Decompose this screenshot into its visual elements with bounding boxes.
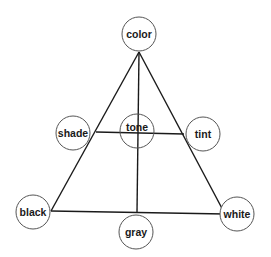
node-white: white — [220, 197, 254, 231]
node-gray-label: gray — [125, 226, 147, 238]
node-tone-label: tone — [126, 121, 148, 133]
color-triangle-diagram: color shade tone tint black gray white — [0, 0, 271, 257]
edge-black-white — [51, 211, 225, 214]
node-shade-label: shade — [58, 127, 89, 139]
node-tint-label: tint — [195, 128, 212, 140]
node-color: color — [122, 17, 156, 51]
node-shade: shade — [56, 116, 90, 150]
node-color-label: color — [126, 28, 152, 40]
node-gray: gray — [119, 215, 153, 249]
node-tint: tint — [186, 117, 220, 151]
node-white-label: white — [223, 208, 251, 220]
node-black: black — [16, 195, 50, 229]
node-black-label: black — [20, 206, 47, 218]
node-tone: tone — [120, 114, 154, 148]
